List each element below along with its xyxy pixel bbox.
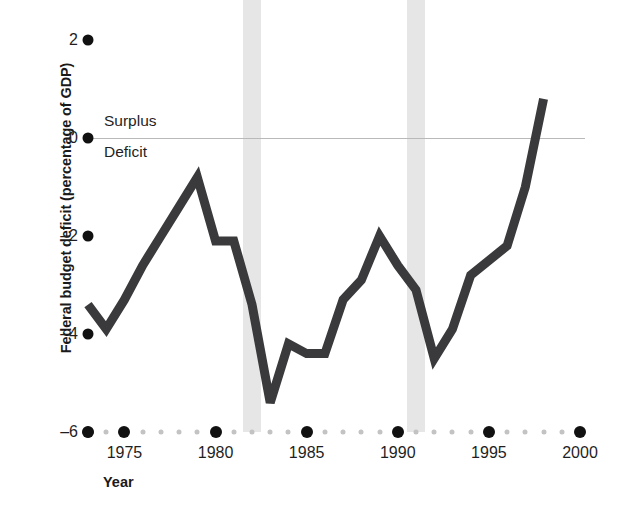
y-axis-tick-dot [83,329,94,340]
x-axis-tick-dot-minor [523,430,528,435]
x-axis-tick-dot-minor [250,430,255,435]
y-axis-tick-label: 0 [44,129,78,147]
x-axis-tick-dot-minor [268,430,273,435]
x-axis-tick-dot-minor [104,430,109,435]
x-axis-tick-dot-minor [158,430,163,435]
x-axis-tick-dot-major [483,426,495,438]
y-axis-tick-dot [83,133,94,144]
x-axis-tick-label: 1975 [107,444,143,462]
plot-area [0,0,632,512]
y-axis-tick-label: –2 [44,227,78,245]
x-axis-tick-dot-minor [377,430,382,435]
x-axis-tick-dot-minor [468,430,473,435]
y-axis-tick-dot [83,35,94,46]
y-axis-tick-label: –6 [44,423,78,441]
x-axis-tick-dot-major [392,426,404,438]
x-axis-title: Year [103,474,134,490]
x-axis-tick-dot-minor [322,430,327,435]
x-axis-tick-label: 1985 [289,444,325,462]
x-axis-tick-dot-minor [195,430,200,435]
y-axis-tick-label: –4 [44,325,78,343]
x-axis-tick-dot-minor [231,430,236,435]
x-axis-tick-label: 1995 [471,444,507,462]
x-axis-tick-dot-minor [341,430,346,435]
x-axis-tick-dot-major [82,426,94,438]
x-axis-tick-dot-minor [414,430,419,435]
x-axis-tick-dot-minor [559,430,564,435]
x-axis-tick-dot-major [210,426,222,438]
chart-figure: Federal budget deficit (percentage of GD… [0,0,632,512]
y-axis-tick-label: 2 [44,31,78,49]
x-axis-tick-dot-minor [450,430,455,435]
x-axis-tick-dot-major [118,426,130,438]
x-axis-tick-dot-major [301,426,313,438]
x-axis-tick-dot-minor [286,430,291,435]
x-axis-tick-dot-minor [359,430,364,435]
x-axis-tick-dot-major [574,426,586,438]
x-axis-tick-dot-minor [541,430,546,435]
x-axis-tick-dot-minor [505,430,510,435]
x-axis-tick-label: 2000 [562,444,598,462]
x-axis-tick-label: 1990 [380,444,416,462]
deficit-line-series [88,99,544,403]
x-axis-tick-label: 1980 [198,444,234,462]
x-axis-tick-dot-minor [140,430,145,435]
x-axis-tick-dot-minor [177,430,182,435]
x-axis-tick-dot-minor [432,430,437,435]
y-axis-tick-dot [83,231,94,242]
